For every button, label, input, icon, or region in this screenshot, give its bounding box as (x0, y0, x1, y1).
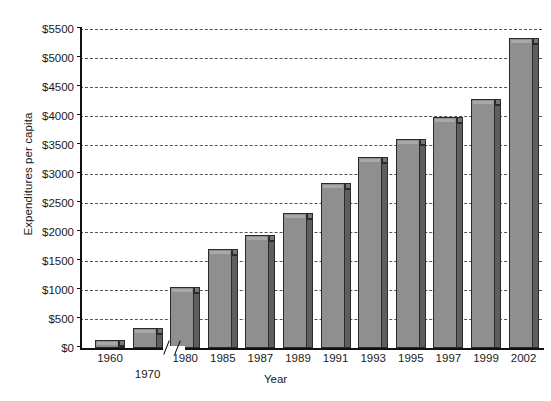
x-axis-tick-label: 1999 (473, 352, 499, 364)
bar-chart: Expenditures per capita $0$500$1000$1500… (0, 0, 551, 401)
x-axis-tick-label: 1997 (436, 352, 462, 364)
x-axis-tick-label: 1980 (172, 352, 198, 364)
x-axis-tick-label: 1960 (97, 352, 123, 364)
x-axis-tick-label: 1987 (248, 352, 274, 364)
x-axis-tick-label: 1993 (360, 352, 386, 364)
x-axis-title: Year (0, 373, 551, 385)
x-axis-tick-labels: 1960197019801985198719891991199319951997… (0, 0, 551, 401)
x-axis-tick-label: 1991 (323, 352, 349, 364)
x-axis-tick-label: 1995 (398, 352, 424, 364)
x-axis-tick-label: 1985 (210, 352, 236, 364)
x-axis-tick-label: 2002 (511, 352, 537, 364)
x-axis-tick-label: 1989 (285, 352, 311, 364)
